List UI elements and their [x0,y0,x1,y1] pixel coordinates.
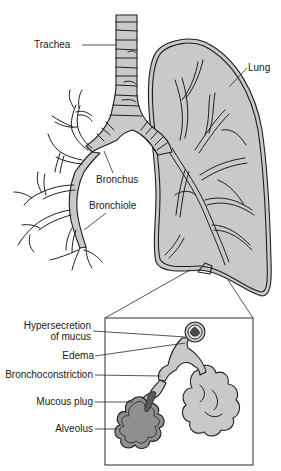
label-trachea: Trachea [34,39,71,50]
label-bronchoconstriction: Bronchoconstriction [5,369,93,380]
leader-bronchiole [84,213,106,230]
label-bronchiole: Bronchiole [89,200,137,211]
inset-connector-left [105,270,190,318]
leader-bronchus [104,151,113,173]
label-bronchus: Bronchus [96,174,138,185]
label-lung: Lung [248,62,270,73]
left-bronchial-tree [14,90,102,270]
label-mucous-plug: Mucous plug [36,396,93,407]
inset-alveoli-detail [105,318,253,465]
lung [148,39,271,296]
label-edema: Edema [62,350,94,361]
label-hypersecretion-line1: Hypersecretion [24,320,91,331]
label-hypersecretion-line2: of mucus [50,331,91,342]
lung-anatomy-diagram: Trachea Lung Bronchus Bronchiole Hyperse… [0,0,281,471]
label-alveolus: Alveolus [55,423,93,434]
